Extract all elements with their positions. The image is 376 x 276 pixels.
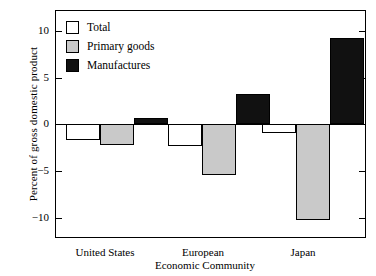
legend-item-total: Total xyxy=(66,18,154,37)
y-tick-label-minus5: −5 xyxy=(19,165,49,176)
y-tick-minus10 xyxy=(55,218,62,219)
legend-label-manufactures: Manufactures xyxy=(87,59,150,72)
x-tick-label-united-states: United States xyxy=(57,246,153,259)
white-square-icon xyxy=(66,21,79,34)
legend-label-primary-goods: Primary goods xyxy=(87,40,154,53)
y-tick-5 xyxy=(55,78,62,79)
x-tick-label-japan: Japan xyxy=(255,246,351,259)
y-tick-right-minus5 xyxy=(359,171,366,172)
bar-european-community-primary-goods xyxy=(202,124,236,175)
bar-united-states-primary-goods xyxy=(100,124,134,145)
x-axis-title: Economic Community xyxy=(155,259,251,272)
legend-item-manufactures: Manufactures xyxy=(66,56,154,75)
bar-united-states-total xyxy=(66,124,100,140)
chart-figure: Percent of gross domestic product 10 5 0… xyxy=(0,0,376,276)
y-tick-label-5: 5 xyxy=(19,72,49,83)
y-tick-right-10 xyxy=(359,31,366,32)
bar-japan-primary-goods xyxy=(296,124,330,220)
x-tick-label-european: European xyxy=(155,246,251,259)
bar-japan-total xyxy=(262,124,296,133)
legend-item-primary-goods: Primary goods xyxy=(66,37,154,56)
y-tick-10 xyxy=(55,31,62,32)
bar-japan-manufactures xyxy=(330,38,364,124)
gray-square-icon xyxy=(66,40,79,53)
bar-european-community-total xyxy=(168,124,202,146)
bar-united-states-manufactures xyxy=(134,118,168,124)
legend-label-total: Total xyxy=(87,21,110,34)
y-tick-label-minus10: −10 xyxy=(19,212,49,223)
black-square-icon xyxy=(66,59,79,72)
bar-european-community-manufactures xyxy=(236,94,270,124)
y-tick-minus5 xyxy=(55,171,62,172)
y-tick-right-minus10 xyxy=(359,218,366,219)
y-tick-label-0: 0 xyxy=(19,118,49,129)
y-tick-label-10: 10 xyxy=(19,25,49,36)
legend: Total Primary goods Manufactures xyxy=(66,18,154,75)
